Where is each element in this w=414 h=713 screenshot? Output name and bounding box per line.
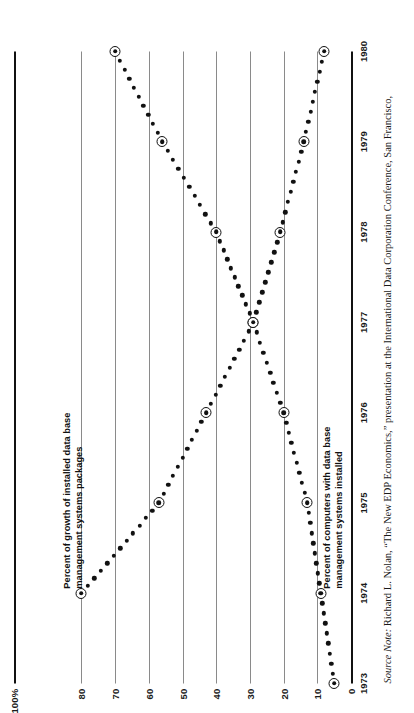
series-1-dot [321, 611, 325, 615]
series-0-dot [105, 560, 109, 564]
series-1-dot [136, 94, 140, 98]
data-point-marker[interactable] [275, 226, 286, 237]
series-1-dot [240, 293, 244, 297]
series-1-dot [122, 67, 126, 71]
series-1-dot [315, 570, 319, 574]
series-1-dot [247, 311, 251, 315]
series-1-dot [192, 193, 196, 197]
series-0-dot [296, 159, 300, 163]
data-point-marker[interactable] [157, 136, 168, 147]
series-1-dot [218, 238, 222, 242]
series-1-dot [221, 247, 225, 251]
series-0-dot [190, 437, 194, 441]
series-0-dot [185, 446, 189, 450]
series-1-dot [261, 350, 265, 354]
series-1-dot [171, 157, 175, 161]
gridline-30 [250, 51, 251, 683]
data-point-marker[interactable] [201, 407, 212, 418]
series-1-dot [155, 130, 159, 134]
series-0-dot [194, 428, 198, 432]
y-axis-tick-50: 50 [177, 688, 188, 699]
series-1-dot [323, 621, 327, 625]
series-0-dot [272, 249, 276, 253]
x-axis-tick-1977: 1977 [358, 311, 369, 332]
series-1-dot [300, 480, 304, 484]
series-0-dot [171, 473, 175, 477]
series-0-dot [263, 280, 267, 284]
source-note-prefix: Source Note: [382, 628, 393, 683]
series-1-dot [287, 430, 291, 434]
data-point-marker[interactable] [211, 226, 222, 237]
series-0-dot [289, 189, 293, 193]
gridline-70 [115, 51, 116, 683]
series-0-dot [99, 568, 103, 572]
series-0-dot [227, 365, 231, 369]
series-1-dot [182, 175, 186, 179]
series-0-dot [315, 79, 319, 83]
data-point-marker[interactable] [329, 678, 340, 689]
series-0-dot [266, 270, 270, 274]
y-axis-tick-70: 70 [110, 688, 121, 699]
series-0-dot [254, 310, 258, 314]
series-1-dot [295, 460, 299, 464]
series-1-dot [302, 490, 306, 494]
series-1-dot [309, 530, 313, 534]
series-1-dot [292, 450, 296, 454]
x-axis-tick-1976: 1976 [358, 402, 369, 423]
series-1-dot [278, 400, 282, 404]
gridline-100 [14, 51, 16, 683]
series-1-dot [198, 202, 202, 206]
y-axis-tick-0: 0 [346, 688, 357, 693]
series-1-dot [265, 360, 269, 364]
series-0-dot [144, 515, 148, 519]
data-point-marker[interactable] [248, 316, 259, 327]
series-0-dot [199, 419, 203, 423]
data-point-marker[interactable] [302, 497, 313, 508]
y-axis-tick-80: 80 [76, 688, 87, 699]
series-1-dot [118, 58, 122, 62]
series-0-dot [86, 583, 90, 587]
y-axis-tick-100: 100% [9, 688, 20, 713]
x-axis-tick-1974: 1974 [358, 582, 369, 603]
series-0-dot [176, 464, 180, 468]
series-0-dot [218, 383, 222, 387]
series-0-dot [92, 575, 96, 579]
data-point-marker[interactable] [76, 587, 87, 598]
series-0-dot [232, 356, 236, 360]
data-point-marker[interactable] [315, 587, 326, 598]
plot-area: 01020304050607080100%1973197419751976197… [14, 51, 351, 683]
y-axis-tick-30: 30 [244, 688, 255, 699]
series-1-dot [203, 211, 207, 215]
series-1-dot [268, 370, 272, 374]
data-point-marker[interactable] [110, 46, 121, 57]
series-1-dot [308, 520, 312, 524]
series-0-dot [306, 119, 310, 123]
series-0-dot [311, 99, 315, 103]
series-1-dot [320, 601, 324, 605]
series-1-dot [233, 275, 237, 279]
series-0-dot [124, 538, 128, 542]
series-0-dot [308, 109, 312, 113]
series-0-dot [317, 69, 321, 73]
series-1-dot [326, 641, 330, 645]
installed-series-label: Percent of computers with data base mana… [321, 426, 345, 588]
source-note: Source Note: Richard L. Nolan, “The New … [382, 3, 393, 683]
series-1-dot [297, 470, 301, 474]
series-1-dot [236, 284, 240, 288]
data-point-marker[interactable] [153, 497, 164, 508]
data-point-marker[interactable] [278, 407, 289, 418]
series-0-dot [299, 149, 303, 153]
series-1-dot [132, 85, 136, 89]
x-axis-tick-1979: 1979 [358, 131, 369, 152]
series-1-dot [312, 550, 316, 554]
data-point-marker[interactable] [298, 136, 309, 147]
series-0-dot [166, 482, 170, 486]
series-1-dot [229, 265, 233, 269]
series-0-dot [180, 455, 184, 459]
series-0-dot [131, 530, 135, 534]
x-axis-tick-1978: 1978 [358, 221, 369, 242]
data-point-marker[interactable] [319, 46, 330, 57]
series-1-dot [225, 256, 229, 260]
